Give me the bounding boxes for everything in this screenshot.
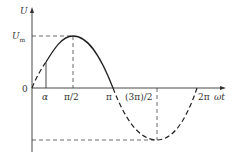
x-axis-arrow-icon xyxy=(220,86,226,90)
tick-three-half-pi: (3π)/2 xyxy=(125,92,152,102)
curve-dashed-start xyxy=(32,62,46,88)
amplitude-label: Um xyxy=(12,31,25,45)
tick-two-pi: 2π xyxy=(198,92,210,102)
amplitude-label-main: U xyxy=(12,31,20,41)
waveform-plot xyxy=(0,0,240,160)
amplitude-label-sub: m xyxy=(20,36,26,43)
tick-pi: π xyxy=(106,92,112,102)
origin-label: 0 xyxy=(22,84,28,94)
tick-alpha: α xyxy=(42,92,48,102)
curve-solid-conducting xyxy=(46,36,113,88)
sine-wave-diagram: U Um 0 α π/2 π (3π)/2 2π ωt xyxy=(0,0,240,160)
y-axis-label: U xyxy=(20,6,28,16)
y-axis-arrow-icon xyxy=(30,7,34,13)
tick-half-pi: π/2 xyxy=(64,92,79,102)
x-axis-label: ωt xyxy=(214,92,225,102)
